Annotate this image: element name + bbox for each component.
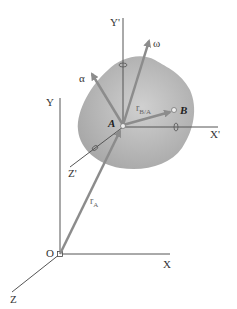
diagram-canvas bbox=[0, 0, 237, 309]
label-x-prime: X' bbox=[210, 129, 220, 140]
label-x: X bbox=[163, 259, 171, 270]
label-z: Z bbox=[10, 294, 17, 305]
label-omega: ω bbox=[153, 38, 160, 49]
label-z-prime: Z' bbox=[68, 168, 77, 179]
label-y: Y bbox=[46, 97, 54, 108]
label-r-ba: rB/A bbox=[136, 103, 151, 116]
label-y-prime: Y' bbox=[110, 17, 120, 28]
point-b bbox=[172, 108, 177, 113]
z-axis bbox=[12, 254, 60, 292]
point-a bbox=[121, 124, 126, 129]
label-r-a: rA bbox=[90, 196, 98, 209]
label-point-b: B bbox=[180, 105, 187, 116]
label-point-a: A bbox=[108, 118, 115, 129]
label-alpha: α bbox=[79, 73, 85, 84]
label-o: O bbox=[46, 248, 54, 259]
